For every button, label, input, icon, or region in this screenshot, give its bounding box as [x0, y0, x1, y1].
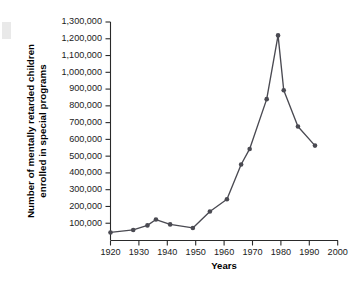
- y-tick-label: 1,200,000: [62, 33, 102, 43]
- x-tick-label: 1940: [157, 247, 177, 257]
- y-tick-label: 200,000: [69, 201, 102, 211]
- series-line: [111, 35, 315, 232]
- data-point: [191, 226, 196, 231]
- data-point: [247, 147, 252, 152]
- data-point: [239, 162, 244, 167]
- data-point: [225, 197, 230, 202]
- x-axis-title: Years: [211, 260, 237, 271]
- y-tick-label: 900,000: [69, 83, 102, 93]
- y-tick-label: 300,000: [69, 184, 102, 194]
- y-tick-label: 700,000: [69, 117, 102, 127]
- data-point: [296, 124, 301, 129]
- x-tick-label: 1950: [186, 247, 206, 257]
- y-tick-label: 1,300,000: [62, 16, 102, 26]
- line-chart: 1,300,000 1,200,000 1,100,000 1,000,000 …: [0, 0, 359, 287]
- y-tick-label: 800,000: [69, 100, 102, 110]
- data-point: [131, 228, 136, 233]
- data-point: [108, 230, 113, 235]
- y-tick-label: 500,000: [69, 151, 102, 161]
- series-markers: [108, 33, 317, 235]
- y-tick-label: 1,000,000: [62, 67, 102, 77]
- y-tick-marks: [106, 22, 111, 223]
- chart-figure: 1,300,000 1,200,000 1,100,000 1,000,000 …: [0, 0, 359, 287]
- x-tick-label: 1970: [242, 247, 262, 257]
- data-point: [313, 143, 318, 148]
- x-tick-label: 1980: [271, 247, 291, 257]
- x-tick-label: 1990: [299, 247, 319, 257]
- x-tick-labels: 1920 1930 1940 1950 1960 1970 1980 1990 …: [100, 247, 347, 257]
- x-tick-marks: [111, 241, 338, 246]
- data-point: [168, 222, 173, 227]
- data-point: [264, 97, 269, 102]
- data-point: [276, 33, 281, 38]
- x-tick-label: 1920: [100, 247, 120, 257]
- x-tick-label: 1930: [129, 247, 149, 257]
- y-tick-labels: 1,300,000 1,200,000 1,100,000 1,000,000 …: [62, 16, 102, 227]
- data-point: [281, 88, 286, 93]
- data-series-group: [108, 33, 317, 235]
- y-axis-title-line1: Number of mentally retarded children: [25, 44, 36, 218]
- y-tick-label: 400,000: [69, 167, 102, 177]
- data-point: [145, 223, 150, 228]
- y-axis-title-line2: enrolled in special programs: [37, 64, 48, 198]
- scan-artifact: [2, 22, 11, 39]
- y-tick-label: 1,100,000: [62, 50, 102, 60]
- data-point: [154, 217, 159, 222]
- y-tick-label: 100,000: [69, 218, 102, 228]
- data-point: [208, 209, 213, 214]
- x-tick-label: 2000: [328, 247, 348, 257]
- x-tick-label: 1960: [214, 247, 234, 257]
- y-tick-label: 600,000: [69, 134, 102, 144]
- y-axis-title: Number of mentally retarded children enr…: [25, 44, 48, 218]
